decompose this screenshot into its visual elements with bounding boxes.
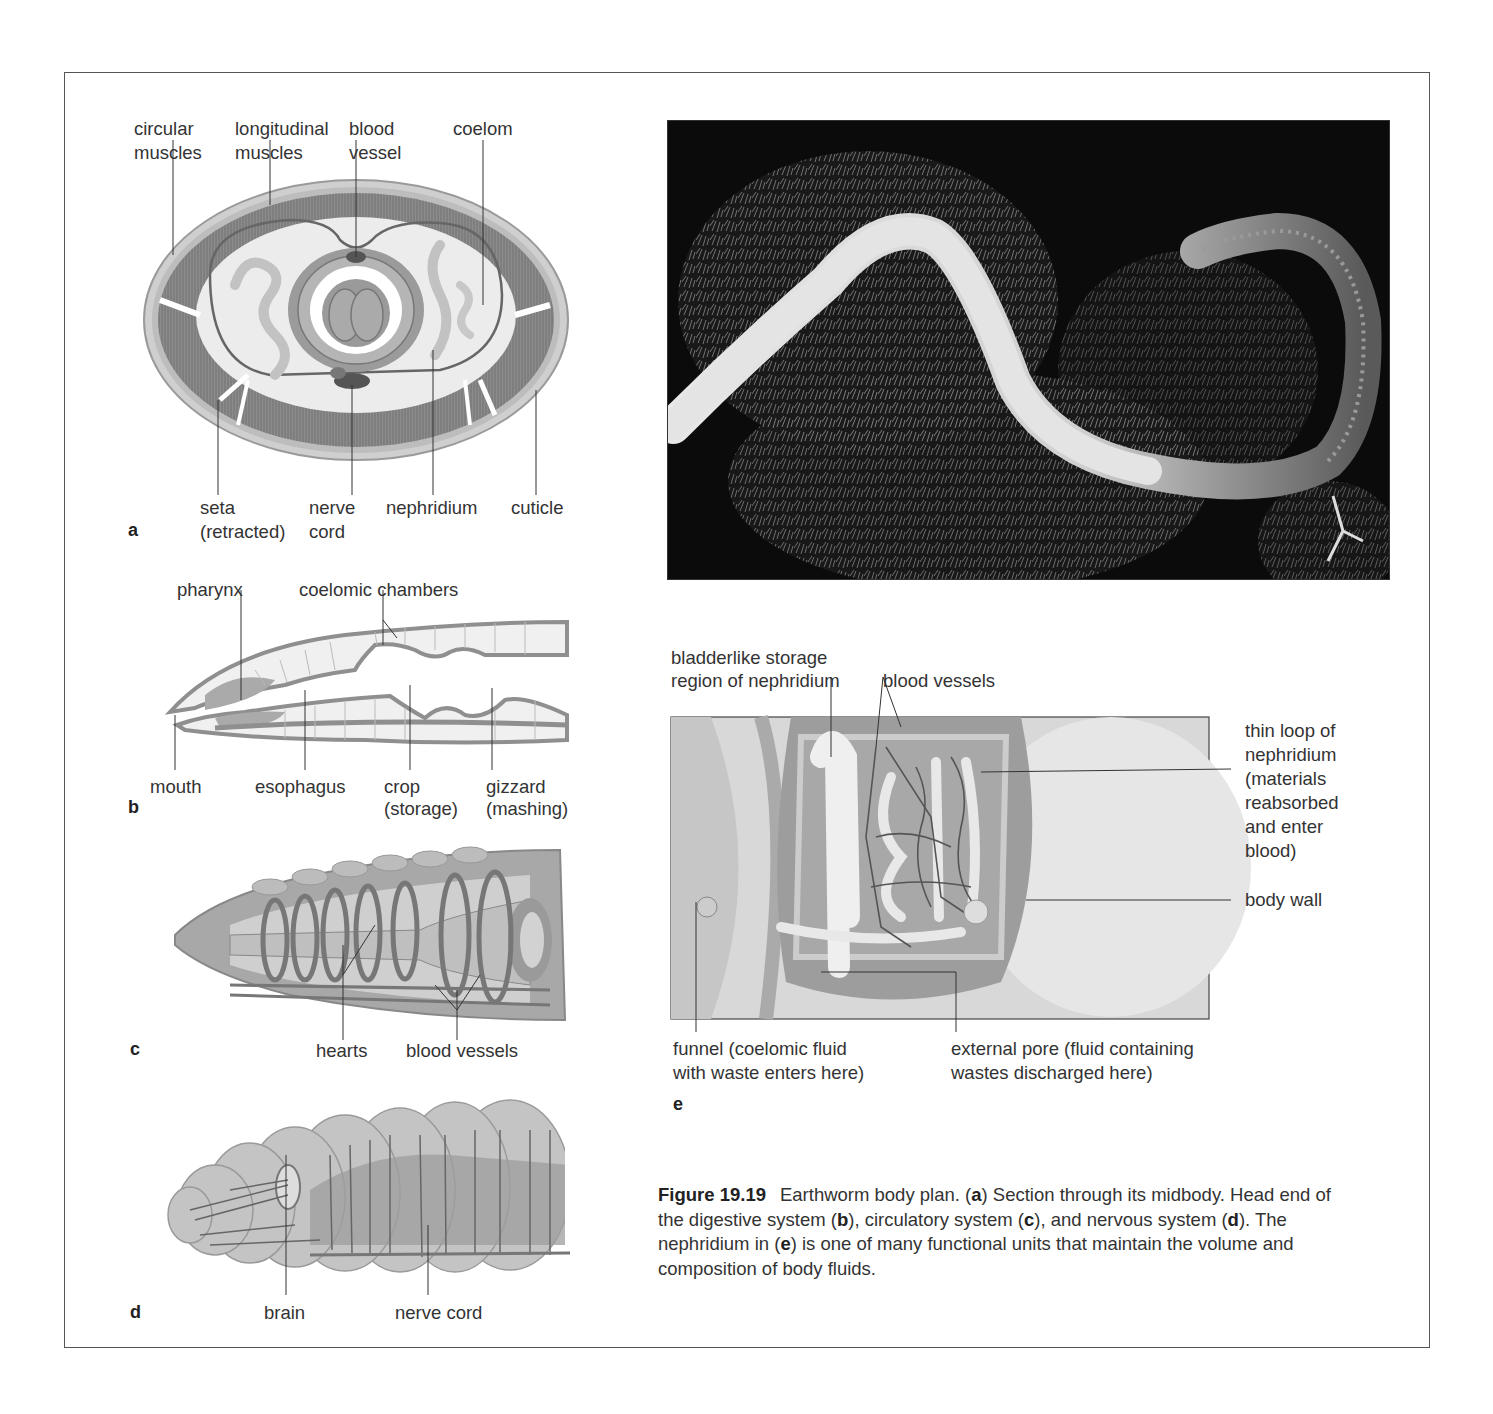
caption-text: ( <box>960 1184 971 1205</box>
label-blood-vessel-line2: vessel <box>349 141 401 164</box>
caption-ref-e: e <box>780 1233 790 1254</box>
label-circular-muscles-line1: circular <box>134 117 194 140</box>
panel-letter-c: c <box>130 1039 140 1060</box>
circulatory-system-illustration <box>170 845 570 1040</box>
caption-ref-d: d <box>1228 1209 1239 1230</box>
label-esophagus: esophagus <box>255 775 346 798</box>
label-nephridium: nephridium <box>386 496 478 519</box>
label-crop-line2: (storage) <box>384 797 458 820</box>
label-gizzard-line2: (mashing) <box>486 797 568 820</box>
label-thin-loop-line3: (materials <box>1245 767 1326 790</box>
nephridium-illustration <box>671 717 1211 1020</box>
panel-letter-a: a <box>128 520 138 541</box>
label-seta-line1: seta <box>200 496 235 519</box>
label-thin-loop-line2: nephridium <box>1245 743 1337 766</box>
caption-ref-b: b <box>837 1209 848 1230</box>
label-thin-loop-line4: reabsorbed <box>1245 791 1339 814</box>
digestive-system-illustration <box>165 600 570 770</box>
label-thin-loop-line5: and enter <box>1245 815 1323 838</box>
label-body-wall: body wall <box>1245 888 1322 911</box>
cross-section-illustration <box>140 165 580 495</box>
earthworm-photo <box>667 120 1390 580</box>
label-bladder-line2: region of nephridium <box>671 669 840 692</box>
label-bladder-line1: bladderlike storage <box>671 646 827 669</box>
label-nerve-cord: nerve cord <box>395 1301 482 1324</box>
label-longitudinal-muscles-line2: muscles <box>235 141 303 164</box>
label-circular-muscles-line2: muscles <box>134 141 202 164</box>
label-cuticle: cuticle <box>511 496 563 519</box>
earthworm-photo-image <box>668 121 1390 580</box>
panel-letter-d: d <box>130 1302 141 1323</box>
label-pore-line1: external pore (fluid containing <box>951 1037 1194 1060</box>
panel-letter-e: e <box>673 1094 683 1115</box>
label-gizzard-line1: gizzard <box>486 775 546 798</box>
label-seta-line2: (retracted) <box>200 520 285 543</box>
caption-ref-c: c <box>1024 1209 1034 1230</box>
label-funnel-line1: funnel (coelomic fluid <box>673 1037 847 1060</box>
label-nerve-cord-line1: nerve <box>309 496 355 519</box>
label-blood-vessels-e: blood vessels <box>883 669 995 692</box>
label-thin-loop-line1: thin loop of <box>1245 719 1336 742</box>
figure-title: Earthworm body plan. <box>780 1184 960 1205</box>
nervous-system-illustration <box>170 1095 575 1305</box>
label-coelom: coelom <box>453 117 513 140</box>
figure-number: Figure 19.19 <box>658 1184 766 1205</box>
label-hearts: hearts <box>316 1039 367 1062</box>
label-blood-vessel-line1: blood <box>349 117 394 140</box>
label-longitudinal-muscles-line1: longitudinal <box>235 117 329 140</box>
label-thin-loop-line6: blood) <box>1245 839 1296 862</box>
label-coelomic-chambers: coelomic chambers <box>299 578 458 601</box>
label-mouth: mouth <box>150 775 201 798</box>
label-crop-line1: crop <box>384 775 420 798</box>
label-nerve-cord-line2: cord <box>309 520 345 543</box>
caption-text: ), and nervous system ( <box>1034 1209 1227 1230</box>
label-blood-vessels: blood vessels <box>406 1039 518 1062</box>
label-funnel-line2: with waste enters here) <box>673 1061 864 1084</box>
figure-caption: Figure 19.19Earthworm body plan. (a) Sec… <box>658 1183 1348 1281</box>
label-brain: brain <box>264 1301 305 1324</box>
label-pharynx: pharynx <box>177 578 243 601</box>
caption-ref-a: a <box>971 1184 981 1205</box>
label-pore-line2: wastes discharged here) <box>951 1061 1153 1084</box>
panel-letter-b: b <box>128 797 139 818</box>
caption-text: ), circulatory system ( <box>848 1209 1024 1230</box>
